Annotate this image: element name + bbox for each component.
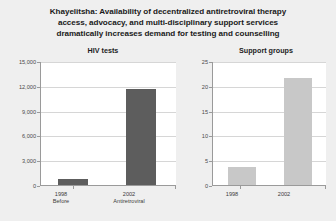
ytick-label-supp-15: 15 bbox=[186, 109, 208, 115]
xlabel-supp-1998-year: 1998 bbox=[226, 191, 238, 197]
bar-support-groups-2002 bbox=[284, 78, 312, 186]
figure-title-line-3: dramatically increases demand for testin… bbox=[0, 28, 336, 39]
xlabel-hiv-1998-year: 1998 bbox=[55, 191, 67, 197]
xtick-mark-supp-end bbox=[325, 186, 326, 189]
ytick-mark-hiv-0 bbox=[37, 186, 40, 187]
gridline-supp-25 bbox=[212, 62, 326, 63]
xtick-mark-supp-mid bbox=[240, 186, 241, 189]
figure-title: Khayelitsha: Availability of decentraliz… bbox=[0, 6, 336, 40]
ytick-label-hiv-6000: 6,000 bbox=[8, 133, 36, 139]
ytick-label-hiv-12000: 12,000 bbox=[8, 84, 36, 90]
gridline-hiv-15000 bbox=[40, 62, 176, 63]
plot-area-hiv-tests bbox=[40, 62, 176, 186]
panel-title-support-groups: Support groups bbox=[186, 46, 332, 55]
panel-title-hiv-tests: HIV tests bbox=[8, 46, 180, 55]
ytick-label-supp-5: 5 bbox=[186, 158, 208, 164]
ytick-mark-supp-10 bbox=[209, 136, 212, 137]
ytick-label-supp-25: 25 bbox=[186, 59, 208, 65]
xlabel-supp-2002-year: 2002 bbox=[278, 191, 290, 197]
xlabel-hiv-2002: 2002 Antiretroviral bbox=[84, 191, 174, 205]
x-axis-line-hiv bbox=[40, 185, 176, 186]
ytick-mark-supp-5 bbox=[209, 161, 212, 162]
ytick-mark-hiv-6000 bbox=[37, 136, 40, 137]
ytick-mark-hiv-12000 bbox=[37, 87, 40, 88]
xlabel-supp-2002: 2002 bbox=[248, 191, 320, 198]
x-axis-line-support bbox=[212, 185, 326, 186]
ytick-label-supp-10: 10 bbox=[186, 133, 208, 139]
bar-hiv-tests-2002 bbox=[126, 89, 156, 186]
y-axis-line-hiv bbox=[40, 62, 41, 186]
figure-title-line-2: access, advocacy, and multi-disciplinary… bbox=[0, 17, 336, 28]
chart-panel-hiv-tests: HIV tests 15,000 12,000 9,000 6,000 3,00… bbox=[8, 46, 180, 218]
ytick-mark-supp-25 bbox=[209, 62, 212, 63]
y-axis-line-support bbox=[212, 62, 213, 186]
xtick-mark-hiv-mid bbox=[73, 186, 74, 189]
ytick-label-hiv-9000: 9,000 bbox=[8, 109, 36, 115]
gridline-hiv-12000 bbox=[40, 87, 176, 88]
ytick-mark-hiv-3000 bbox=[37, 161, 40, 162]
bar-support-groups-1998 bbox=[228, 167, 256, 186]
ytick-label-hiv-3000: 3,000 bbox=[8, 158, 36, 164]
ytick-label-hiv-15000: 15,000 bbox=[8, 59, 36, 65]
xlabel-hiv-2002-sub: Antiretroviral bbox=[84, 198, 174, 205]
xtick-mark-hiv-end bbox=[175, 186, 176, 189]
figure-canvas: Khayelitsha: Availability of decentraliz… bbox=[0, 0, 336, 221]
ytick-mark-supp-20 bbox=[209, 87, 212, 88]
ytick-label-supp-20: 20 bbox=[186, 84, 208, 90]
ytick-mark-hiv-15000 bbox=[37, 62, 40, 63]
ytick-mark-supp-15 bbox=[209, 112, 212, 113]
figure-title-line-1: Khayelitsha: Availability of decentraliz… bbox=[0, 6, 336, 17]
plot-area-support-groups bbox=[212, 62, 326, 186]
ytick-mark-hiv-9000 bbox=[37, 112, 40, 113]
xlabel-hiv-2002-year: 2002 bbox=[123, 191, 135, 197]
ytick-label-supp-0: 0 bbox=[186, 183, 208, 189]
ytick-label-hiv-0: 0 bbox=[8, 183, 36, 189]
chart-panel-support-groups: Support groups 25 20 15 10 5 0 1998 bbox=[186, 46, 332, 218]
ytick-mark-supp-0 bbox=[209, 186, 212, 187]
